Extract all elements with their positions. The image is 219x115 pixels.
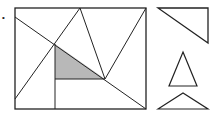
outer-rectangle: [15, 8, 146, 109]
line-vertex-to-top-right: [105, 8, 146, 79]
line-bottom-left-to-top: [15, 8, 80, 99]
piece-isosceles-triangle: [169, 52, 197, 86]
label-dot: •: [2, 13, 5, 22]
shaded-triangle: [55, 44, 105, 79]
diagonal-top-left: [15, 17, 146, 109]
piece-obtuse-triangle: [158, 93, 208, 109]
piece-right-triangle: [158, 8, 208, 43]
geometry-diagram: •: [0, 0, 219, 115]
